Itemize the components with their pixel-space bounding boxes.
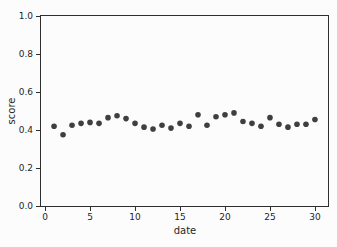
scatter-points <box>41 16 328 206</box>
data-point <box>141 124 147 130</box>
x-tick-mark <box>270 207 271 211</box>
data-point <box>87 120 93 126</box>
data-point <box>78 121 84 127</box>
x-tick-mark <box>90 207 91 211</box>
data-point <box>249 121 255 127</box>
y-axis-label: score <box>6 98 17 125</box>
data-point <box>105 115 111 121</box>
y-tick-label: 0.8 <box>11 49 33 59</box>
data-point <box>240 119 246 125</box>
x-tick-label: 20 <box>219 212 230 222</box>
y-tick-mark <box>36 206 40 207</box>
x-tick-mark <box>135 207 136 211</box>
y-tick-mark <box>36 92 40 93</box>
x-tick-label: 25 <box>264 212 275 222</box>
x-axis-label: date <box>174 225 197 236</box>
data-point <box>123 116 129 122</box>
data-point <box>285 124 291 130</box>
data-point <box>303 122 309 128</box>
data-point <box>267 115 273 121</box>
y-tick-label: 1.0 <box>11 11 33 21</box>
data-point <box>114 113 120 119</box>
data-point <box>60 132 66 138</box>
x-tick-mark <box>180 207 181 211</box>
data-point <box>231 110 237 116</box>
data-point <box>258 123 264 129</box>
y-tick-label: 0.2 <box>11 163 33 173</box>
y-tick-label: 0.0 <box>11 201 33 211</box>
data-point <box>222 112 228 118</box>
scatter-figure: 0510152025300.00.20.40.60.81.0 score dat… <box>0 0 337 247</box>
data-point <box>213 114 219 120</box>
data-point <box>69 122 75 128</box>
y-tick-mark <box>36 54 40 55</box>
data-point <box>186 123 192 129</box>
plot-area <box>40 15 329 207</box>
data-point <box>204 122 210 128</box>
data-point <box>51 123 57 129</box>
x-tick-mark <box>315 207 316 211</box>
x-tick-label: 30 <box>309 212 320 222</box>
data-point <box>294 122 300 128</box>
data-point <box>177 121 183 127</box>
data-point <box>195 112 201 118</box>
data-point <box>312 117 318 123</box>
data-point <box>132 121 138 127</box>
y-tick-mark <box>36 168 40 169</box>
data-point <box>150 126 156 132</box>
data-point <box>276 122 282 128</box>
data-point <box>96 121 102 127</box>
x-tick-label: 0 <box>42 212 48 222</box>
y-tick-mark <box>36 16 40 17</box>
data-point <box>168 125 174 131</box>
x-tick-mark <box>45 207 46 211</box>
y-tick-label: 0.6 <box>11 87 33 97</box>
x-tick-mark <box>225 207 226 211</box>
x-tick-label: 15 <box>174 212 185 222</box>
y-tick-mark <box>36 130 40 131</box>
x-tick-label: 10 <box>129 212 140 222</box>
y-tick-label: 0.4 <box>11 125 33 135</box>
x-tick-label: 5 <box>87 212 93 222</box>
data-point <box>159 122 165 128</box>
